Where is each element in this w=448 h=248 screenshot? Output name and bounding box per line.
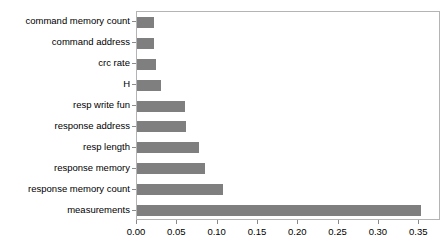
bar-row: [137, 117, 186, 136]
y-axis-tick-labels: command memory countcommand addresscrc r…: [0, 11, 130, 220]
x-tick-label: 0.00: [116, 226, 156, 238]
bar: [137, 121, 186, 132]
bar: [137, 184, 223, 195]
bar: [137, 205, 421, 216]
y-tick-label: H: [0, 78, 130, 89]
bar-row: [137, 13, 154, 32]
y-tick-label: command memory count: [0, 15, 130, 26]
bar: [137, 17, 154, 28]
bar-row: [137, 76, 161, 95]
bar-row: [137, 201, 421, 220]
bar: [137, 59, 156, 70]
x-tick-mark: [136, 220, 137, 224]
x-tick-label: 0.20: [277, 226, 317, 238]
y-tick-label: command address: [0, 36, 130, 47]
bar: [137, 163, 205, 174]
x-tick-label: 0.15: [237, 226, 277, 238]
bar-row: [137, 34, 154, 53]
y-tick-label: resp write fun: [0, 99, 130, 110]
bar-row: [137, 138, 199, 157]
y-tick-label: measurements: [0, 204, 130, 215]
x-tick-mark: [257, 220, 258, 224]
x-tick-label: 0.35: [398, 226, 438, 238]
y-tick-label: crc rate: [0, 57, 130, 68]
y-tick-label: response memory: [0, 162, 130, 173]
x-tick-label: 0.25: [318, 226, 358, 238]
x-tick-mark: [217, 220, 218, 224]
y-tick-label: response memory count: [0, 183, 130, 194]
bar-row: [137, 55, 156, 74]
x-tick-label: 0.10: [197, 226, 237, 238]
x-tick-mark: [418, 220, 419, 224]
bar: [137, 38, 154, 49]
bar-row: [137, 180, 223, 199]
figure: command memory countcommand addresscrc r…: [0, 0, 448, 248]
x-tick-label: 0.05: [156, 226, 196, 238]
bar: [137, 101, 185, 112]
plot-area: [136, 11, 440, 220]
x-tick-label: 0.30: [358, 226, 398, 238]
x-tick-mark: [176, 220, 177, 224]
y-tick-label: response address: [0, 120, 130, 131]
bar-row: [137, 159, 205, 178]
bar: [137, 142, 199, 153]
bar: [137, 80, 161, 91]
bar-row: [137, 97, 185, 116]
x-tick-mark: [338, 220, 339, 224]
y-tick-label: resp length: [0, 141, 130, 152]
x-tick-mark: [378, 220, 379, 224]
x-tick-mark: [297, 220, 298, 224]
